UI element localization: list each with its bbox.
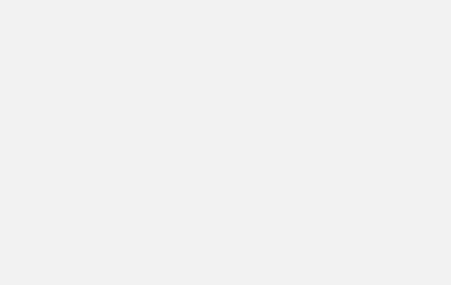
notebook-page [0, 0, 451, 285]
paper [45, 22, 403, 285]
